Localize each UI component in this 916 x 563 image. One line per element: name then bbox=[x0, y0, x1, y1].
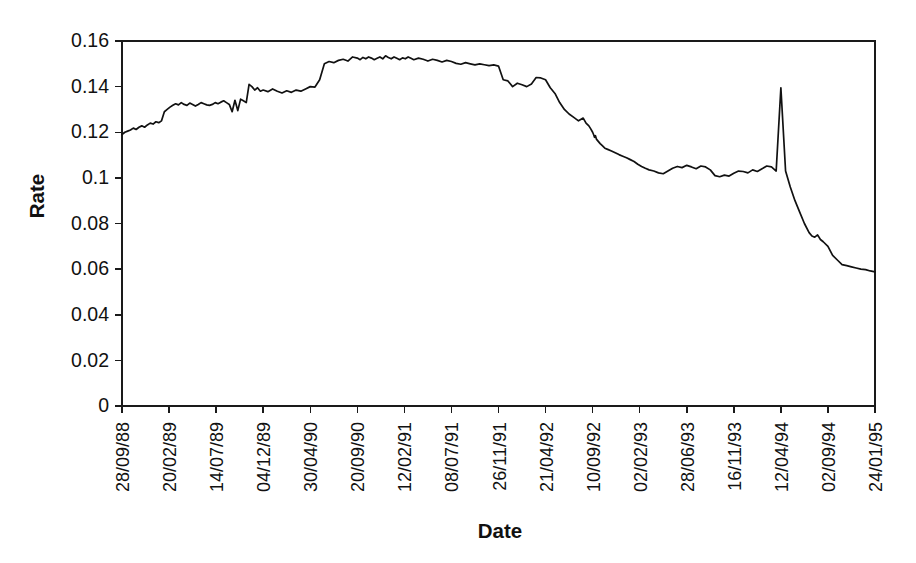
y-tick-label: 0.16 bbox=[71, 29, 109, 51]
x-tick-label: 08/07/91 bbox=[442, 422, 462, 492]
y-axis-title: Rate bbox=[25, 174, 48, 218]
x-tick-label: 04/12/89 bbox=[254, 422, 274, 492]
x-tick-label: 21/04/92 bbox=[537, 422, 557, 492]
x-tick-label: 14/07/89 bbox=[207, 422, 227, 492]
x-tick-label: 26/11/91 bbox=[490, 422, 510, 491]
y-tick-label: 0.02 bbox=[71, 349, 109, 371]
y-tick-label: 0.14 bbox=[71, 75, 109, 97]
y-tick-label: 0.06 bbox=[71, 257, 109, 279]
x-tick-label: 02/09/94 bbox=[819, 422, 839, 492]
chart-figure: 00.020.040.060.080.10.120.140.16 28/09/8… bbox=[0, 0, 916, 563]
rate-line-chart: 00.020.040.060.080.10.120.140.16 28/09/8… bbox=[0, 0, 916, 563]
y-tick-label: 0 bbox=[98, 394, 109, 416]
x-tick-label: 28/09/88 bbox=[113, 422, 133, 492]
x-axis-title: Date bbox=[478, 519, 522, 542]
x-tick-label: 20/09/90 bbox=[348, 422, 368, 492]
y-tick-label: 0.04 bbox=[71, 303, 109, 325]
y-tick-label: 0.12 bbox=[71, 120, 109, 142]
rate-series-line bbox=[122, 56, 875, 272]
x-tick-label: 02/02/93 bbox=[631, 422, 651, 492]
x-tick-label: 28/06/93 bbox=[678, 422, 698, 492]
x-tick-label: 30/04/90 bbox=[301, 422, 321, 492]
x-axis-tick-labels: 28/09/8820/02/8914/07/8904/12/8930/04/90… bbox=[113, 422, 886, 492]
x-tick-label: 20/02/89 bbox=[160, 422, 180, 492]
x-tick-label: 24/01/95 bbox=[866, 422, 886, 492]
y-tick-label: 0.08 bbox=[71, 212, 109, 234]
x-tick-label: 10/09/92 bbox=[584, 422, 604, 492]
x-tick-label: 12/02/91 bbox=[395, 422, 415, 492]
plot-frame bbox=[122, 41, 875, 406]
y-tick-label: 0.1 bbox=[82, 166, 109, 188]
x-tick-label: 16/11/93 bbox=[725, 422, 745, 491]
y-axis-tick-labels: 00.020.040.060.080.10.120.140.16 bbox=[71, 29, 109, 416]
x-tick-label: 12/04/94 bbox=[772, 422, 792, 492]
